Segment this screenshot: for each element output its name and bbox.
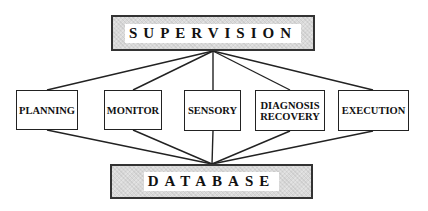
database-box: DATABASE [110,164,313,199]
sensory-label: SENSORY [188,105,237,116]
planning-label: PLANNING [19,105,75,116]
planning-box: PLANNING [16,90,78,130]
execution-label: EXECUTION [342,105,406,116]
execution-box: EXECUTION [338,90,409,131]
recovery-label: RECOVERY [260,111,320,122]
monitor-box: MONITOR [104,90,162,130]
database-label: DATABASE [144,172,279,191]
supervision-label: SUPERVISION [125,24,301,43]
supervision-box: SUPERVISION [111,15,315,51]
sensory-box: SENSORY [184,90,241,131]
monitor-label: MONITOR [107,105,159,116]
diagnosis-recovery-box: DIAGNOSIS RECOVERY [255,90,325,131]
diagnosis-label: DIAGNOSIS [261,100,320,111]
